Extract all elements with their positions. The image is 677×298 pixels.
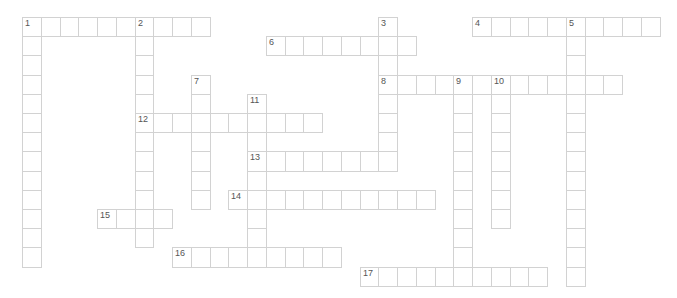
crossword-cell[interactable] — [22, 113, 42, 133]
crossword-cell[interactable] — [22, 247, 42, 268]
crossword-cell[interactable] — [135, 36, 154, 56]
crossword-cell[interactable] — [453, 190, 473, 210]
crossword-cell[interactable] — [135, 151, 154, 172]
crossword-cell[interactable] — [547, 17, 567, 37]
crossword-cell[interactable] — [172, 113, 192, 133]
crossword-cell[interactable] — [510, 75, 529, 95]
crossword-cell[interactable] — [453, 267, 473, 287]
crossword-cell[interactable] — [585, 75, 604, 95]
crossword-cell[interactable] — [322, 190, 342, 210]
crossword-cell[interactable] — [247, 209, 267, 229]
crossword-cell[interactable]: 17 — [360, 267, 379, 287]
crossword-cell[interactable] — [303, 36, 323, 56]
crossword-cell[interactable] — [135, 209, 154, 229]
crossword-cell[interactable]: 3 — [378, 17, 398, 37]
crossword-cell[interactable] — [135, 55, 154, 76]
crossword-cell[interactable] — [491, 190, 511, 210]
crossword-cell[interactable] — [566, 190, 586, 210]
crossword-cell[interactable]: 6 — [266, 36, 286, 56]
crossword-cell[interactable]: 13 — [247, 151, 267, 172]
crossword-cell[interactable] — [378, 151, 398, 172]
crossword-cell[interactable] — [378, 94, 398, 114]
crossword-cell[interactable]: 16 — [172, 247, 192, 268]
crossword-cell[interactable] — [641, 17, 661, 37]
crossword-cell[interactable] — [191, 190, 211, 210]
crossword-cell[interactable] — [210, 113, 229, 133]
crossword-cell[interactable] — [116, 209, 136, 229]
crossword-cell[interactable] — [285, 190, 304, 210]
crossword-cell[interactable] — [191, 17, 211, 37]
crossword-cell[interactable] — [191, 171, 211, 191]
crossword-cell[interactable] — [22, 151, 42, 172]
crossword-cell[interactable] — [378, 36, 398, 56]
crossword-cell[interactable] — [210, 247, 229, 268]
crossword-cell[interactable] — [360, 151, 379, 172]
crossword-cell[interactable] — [247, 190, 267, 210]
crossword-cell[interactable] — [491, 94, 511, 114]
crossword-cell[interactable] — [303, 113, 323, 133]
crossword-cell[interactable] — [416, 190, 436, 210]
crossword-cell[interactable] — [191, 132, 211, 152]
crossword-cell[interactable] — [547, 75, 567, 95]
crossword-cell[interactable]: 12 — [135, 113, 154, 133]
crossword-cell[interactable]: 4 — [472, 17, 492, 37]
crossword-cell[interactable] — [22, 75, 42, 95]
crossword-cell[interactable] — [491, 171, 511, 191]
crossword-cell[interactable] — [341, 151, 361, 172]
crossword-cell[interactable] — [453, 94, 473, 114]
crossword-cell[interactable] — [453, 113, 473, 133]
crossword-cell[interactable] — [528, 17, 548, 37]
crossword-cell[interactable] — [285, 247, 304, 268]
crossword-cell[interactable] — [303, 151, 323, 172]
crossword-cell[interactable] — [228, 247, 248, 268]
crossword-cell[interactable] — [491, 209, 511, 229]
crossword-cell[interactable] — [322, 247, 342, 268]
crossword-cell[interactable] — [566, 36, 586, 56]
crossword-cell[interactable] — [397, 267, 417, 287]
crossword-cell[interactable] — [22, 132, 42, 152]
crossword-cell[interactable] — [247, 247, 267, 268]
crossword-cell[interactable] — [603, 17, 623, 37]
crossword-cell[interactable] — [397, 190, 417, 210]
crossword-cell[interactable] — [116, 17, 136, 37]
crossword-cell[interactable] — [566, 132, 586, 152]
crossword-cell[interactable] — [378, 113, 398, 133]
crossword-cell[interactable] — [22, 190, 42, 210]
crossword-cell[interactable]: 2 — [135, 17, 154, 37]
crossword-cell[interactable] — [603, 75, 623, 95]
crossword-cell[interactable] — [247, 132, 267, 152]
crossword-cell[interactable] — [191, 151, 211, 172]
crossword-cell[interactable] — [135, 132, 154, 152]
crossword-cell[interactable] — [378, 55, 398, 76]
crossword-cell[interactable] — [360, 36, 379, 56]
crossword-cell[interactable] — [60, 17, 79, 37]
crossword-cell[interactable] — [247, 113, 267, 133]
crossword-cell[interactable] — [303, 190, 323, 210]
crossword-cell[interactable] — [472, 267, 492, 287]
crossword-cell[interactable] — [491, 17, 511, 37]
crossword-cell[interactable] — [453, 171, 473, 191]
crossword-cell[interactable] — [135, 228, 154, 248]
crossword-cell[interactable]: 5 — [566, 17, 586, 37]
crossword-cell[interactable] — [416, 75, 436, 95]
crossword-cell[interactable] — [22, 228, 42, 248]
crossword-cell[interactable] — [453, 228, 473, 248]
crossword-cell[interactable]: 9 — [453, 75, 473, 95]
crossword-cell[interactable] — [566, 171, 586, 191]
crossword-cell[interactable] — [135, 190, 154, 210]
crossword-cell[interactable] — [172, 17, 192, 37]
crossword-cell[interactable] — [566, 75, 586, 95]
crossword-cell[interactable] — [322, 151, 342, 172]
crossword-cell[interactable] — [622, 17, 642, 37]
crossword-cell[interactable] — [510, 17, 529, 37]
crossword-cell[interactable] — [266, 113, 286, 133]
crossword-cell[interactable] — [191, 113, 211, 133]
crossword-cell[interactable] — [153, 113, 173, 133]
crossword-cell[interactable] — [528, 75, 548, 95]
crossword-cell[interactable] — [97, 17, 117, 37]
crossword-cell[interactable] — [135, 171, 154, 191]
crossword-cell[interactable]: 7 — [191, 75, 211, 95]
crossword-cell[interactable] — [191, 94, 211, 114]
crossword-cell[interactable] — [491, 151, 511, 172]
crossword-cell[interactable] — [435, 75, 454, 95]
